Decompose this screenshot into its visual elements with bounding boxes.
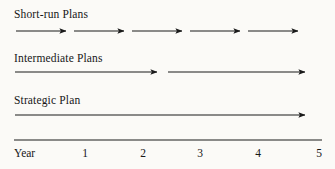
figure-vector-layer: [0, 0, 335, 169]
planning-horizons-figure: Short-run Plans Intermediate Plans Strat…: [0, 0, 335, 169]
axis-tick-label-3: 3: [193, 147, 207, 160]
axis-label-year: Year: [14, 147, 35, 160]
axis-tick-label-5: 5: [312, 147, 326, 160]
row-label-intermediate-plans: Intermediate Plans: [14, 52, 103, 64]
row-label-short-run-plans: Short-run Plans: [14, 8, 88, 20]
row-label-strategic-plan: Strategic Plan: [14, 94, 80, 106]
axis-tick-label-2: 2: [136, 147, 150, 160]
axis-tick-label-1: 1: [78, 147, 92, 160]
axis-tick-label-4: 4: [251, 147, 265, 160]
